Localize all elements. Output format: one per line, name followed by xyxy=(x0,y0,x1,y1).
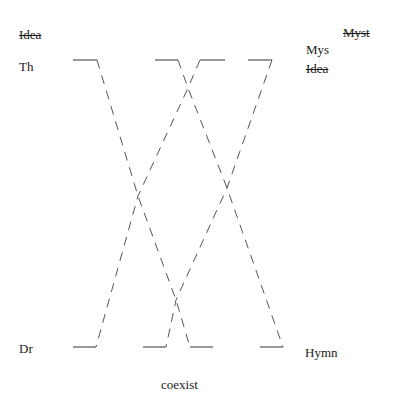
path-2 xyxy=(178,60,283,347)
path-1 xyxy=(97,60,190,347)
crossing-paths-diagram xyxy=(0,0,394,407)
path-4 xyxy=(166,60,272,347)
path-3 xyxy=(96,60,200,347)
